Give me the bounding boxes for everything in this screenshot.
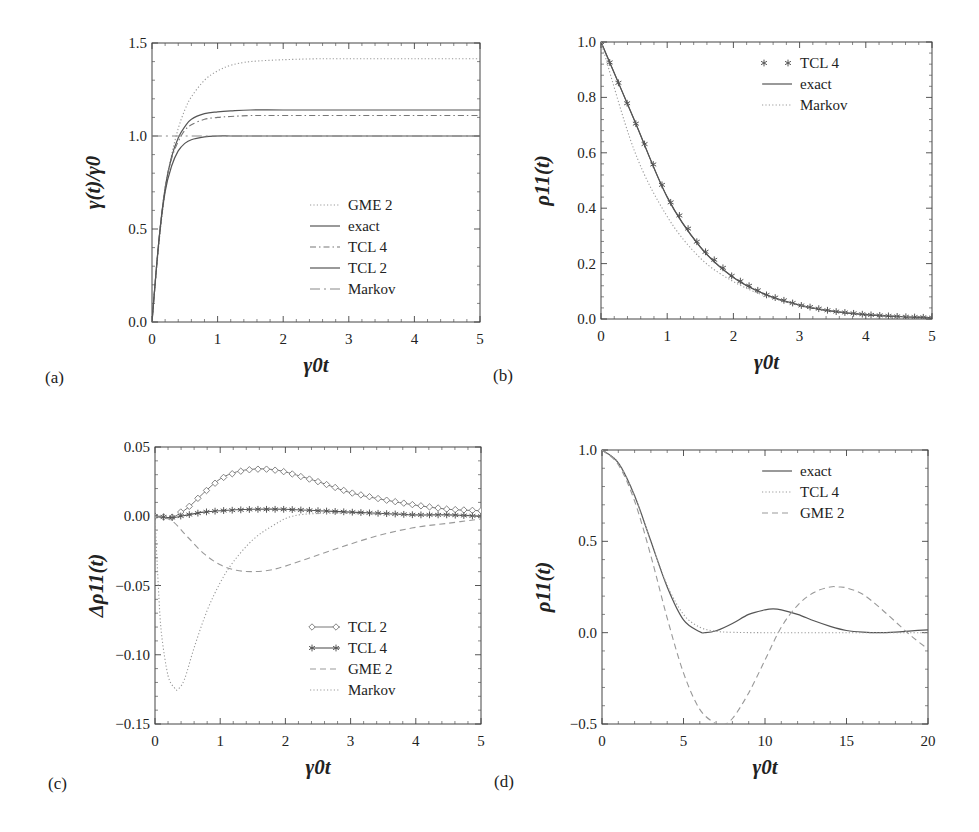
plot-area: [598, 39, 935, 321]
x-tick-label: 3: [347, 733, 355, 749]
series-tcl-4: [602, 450, 928, 633]
x-tick-label: 5: [928, 328, 936, 344]
legend-label: Markov: [800, 97, 848, 113]
plot-frame: [152, 43, 480, 322]
x-tick-label: 0: [597, 328, 605, 344]
legend-label: Markov: [348, 682, 396, 698]
x-axis-title: γ0t: [754, 350, 780, 374]
x-tick-label: 2: [279, 331, 287, 347]
x-tick-label: 2: [282, 733, 290, 749]
y-tick-label: −0.05: [115, 578, 150, 594]
x-tick-label: 15: [839, 733, 854, 749]
legend-item: TCL 4: [309, 640, 387, 656]
legend-item: exact: [762, 76, 832, 92]
x-axis: 012345: [597, 42, 936, 344]
panel-tag: (c): [48, 774, 67, 793]
y-axis-title: ρ11(t): [530, 155, 554, 206]
legend-item: TCL 4: [762, 484, 840, 500]
legend-label: Markov: [348, 281, 396, 297]
x-tick-label: 5: [680, 733, 688, 749]
y-axis: 0.00.51.01.5: [128, 35, 480, 330]
panel-tag: (d): [494, 772, 514, 791]
figure-canvas: 0123450.00.51.01.5γ0tγ(t)/γ0(a)GME 2exac…: [0, 0, 979, 832]
legend-label: TCL 4: [348, 239, 388, 255]
x-tick-label: 10: [758, 733, 773, 749]
legend-label: exact: [800, 76, 832, 92]
y-tick-label: 0.5: [578, 533, 597, 549]
legend: TCL 2TCL 4GME 2Markov: [309, 619, 396, 698]
y-tick-label: 0.00: [124, 508, 150, 524]
x-tick-label: 0: [148, 331, 156, 347]
x-tick-label: 5: [477, 733, 485, 749]
legend: GME 2exactTCL 4TCL 2Markov: [310, 197, 396, 297]
x-axis: 012345: [148, 43, 484, 347]
legend-item: exact: [310, 218, 380, 234]
y-tick-label: 1.0: [578, 442, 597, 458]
plot-area: [152, 59, 480, 322]
legend-item: GME 2: [762, 505, 845, 521]
x-tick-label: 3: [345, 331, 353, 347]
y-tick-label: 0.0: [578, 625, 597, 641]
x-tick-label: 0: [598, 733, 606, 749]
y-tick-label: 0.6: [577, 145, 596, 161]
x-tick-label: 4: [411, 331, 419, 347]
x-tick-label: 5: [476, 331, 484, 347]
legend-item: GME 2: [310, 197, 393, 213]
x-tick-label: 4: [412, 733, 420, 749]
x-tick-label: 1: [663, 328, 671, 344]
y-tick-label: 0.0: [577, 311, 596, 327]
legend-label: TCL 4: [800, 484, 840, 500]
y-axis-title: ρ11(t): [531, 562, 555, 613]
legend-item: GME 2: [310, 661, 393, 677]
x-axis: 012345: [151, 447, 485, 749]
panel-tag: (a): [45, 368, 64, 387]
y-axis: 0.050.00−0.05−0.10−0.15: [115, 439, 481, 732]
x-tick-label: 1: [216, 733, 224, 749]
y-tick-label: 1.0: [577, 34, 596, 50]
x-tick-label: 4: [862, 328, 870, 344]
plot-area: [152, 466, 484, 690]
y-axis: 0.00.20.40.60.81.0: [577, 34, 932, 327]
y-axis-title: Δρ11(t): [84, 554, 108, 619]
y-tick-label: 0.0: [128, 314, 147, 330]
legend-item: Markov: [762, 97, 848, 113]
series-gme-2: [152, 59, 480, 322]
legend: exactTCL 4GME 2: [762, 463, 845, 521]
y-tick-label: −0.5: [570, 716, 597, 732]
legend-label: TCL 2: [348, 619, 387, 635]
legend-item: TCL 4: [310, 239, 388, 255]
y-tick-label: −0.15: [115, 716, 150, 732]
panel-d: 051015201.00.50.0−0.5γ0tρ11(t)(d)exactTC…: [494, 442, 936, 791]
series-tcl-2: [152, 136, 480, 322]
series-gme-2: [155, 516, 481, 571]
plot-frame: [602, 450, 928, 724]
legend-label: exact: [348, 218, 380, 234]
y-tick-label: 0.5: [128, 221, 147, 237]
legend-label: GME 2: [800, 505, 845, 521]
series-markov: [155, 513, 481, 690]
y-tick-label: 1.0: [128, 128, 147, 144]
panel-tag: (b): [493, 366, 513, 385]
panel-b: 0123450.00.20.40.60.81.0γ0tρ11(t)(b)TCL …: [493, 34, 936, 385]
series-tcl-4: [601, 42, 932, 318]
y-tick-label: −0.10: [115, 647, 150, 663]
series-tcl-4: [152, 115, 480, 322]
x-tick-label: 1: [214, 331, 222, 347]
legend-label: TCL 4: [800, 55, 840, 71]
legend-item: Markov: [310, 281, 396, 297]
y-tick-label: 0.2: [577, 256, 596, 272]
series-exact: [152, 110, 480, 322]
series-markov: [601, 42, 932, 317]
x-tick-label: 2: [730, 328, 738, 344]
y-tick-label: 0.05: [124, 439, 150, 455]
x-axis-title: γ0t: [752, 755, 778, 779]
x-axis-title: γ0t: [305, 755, 331, 779]
y-axis-title: γ(t)/γ0: [81, 155, 105, 209]
plot-area: [602, 450, 928, 726]
legend-label: exact: [800, 463, 832, 479]
y-axis: 1.00.50.0−0.5: [570, 442, 928, 732]
y-tick-label: 0.4: [577, 200, 596, 216]
legend-item: TCL 2: [309, 619, 387, 635]
x-tick-label: 20: [921, 733, 936, 749]
legend-label: GME 2: [348, 197, 393, 213]
